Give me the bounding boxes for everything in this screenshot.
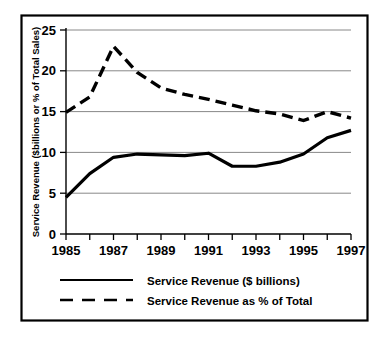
- legend-label-service-revenue: Service Revenue ($ billions): [147, 275, 300, 287]
- x-tick-label-1987: 1987: [99, 243, 128, 258]
- y-tick-label-15: 15: [42, 104, 56, 119]
- y-tick-label-20: 20: [42, 63, 56, 78]
- x-tick-label-1993: 1993: [242, 243, 271, 258]
- legend-label-percent-of-total: Service Revenue as % of Total: [147, 295, 312, 307]
- service-revenue-line-chart: 25 20 15 10 5 0 1985 1987 198: [0, 0, 385, 338]
- y-tick-label-25: 25: [42, 23, 56, 38]
- x-tick-label-1995: 1995: [289, 243, 318, 258]
- y-tick-label-10: 10: [42, 145, 56, 160]
- y-tick-label-5: 5: [49, 186, 56, 201]
- plot-area-background: [66, 30, 351, 234]
- y-axis-title: Service Revenue ($billions or % of Total…: [30, 27, 41, 237]
- chart-figure: 25 20 15 10 5 0 1985 1987 198: [0, 0, 385, 338]
- x-tick-label-1989: 1989: [147, 243, 176, 258]
- x-tick-label-1997: 1997: [337, 243, 366, 258]
- x-tick-label-1985: 1985: [52, 243, 81, 258]
- x-tick-label-1991: 1991: [194, 243, 223, 258]
- y-tick-label-0: 0: [49, 227, 56, 242]
